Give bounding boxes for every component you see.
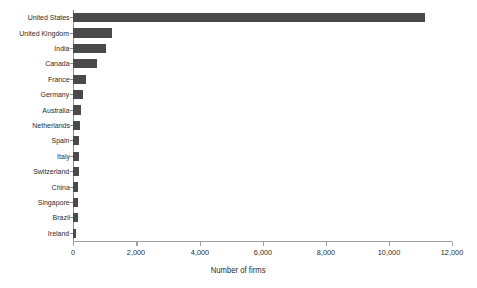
bar-row [73, 179, 452, 194]
x-axis-tick-label: 4,000 [190, 248, 208, 258]
category-label: France [48, 75, 70, 84]
bar[interactable] [73, 152, 79, 161]
bar-row [73, 87, 452, 102]
x-axis-tick-label: 12,000 [441, 248, 463, 258]
bar-row [73, 118, 452, 133]
bar[interactable] [73, 213, 77, 222]
bar[interactable] [73, 167, 78, 176]
category-label: Switzerland [33, 167, 69, 176]
x-axis-tick [200, 242, 201, 246]
x-axis-tick [326, 242, 327, 246]
x-axis-tick-label: 8,000 [317, 248, 335, 258]
bar-row [73, 102, 452, 117]
category-label: United Kingdom [20, 29, 70, 38]
category-label: Singapore [38, 198, 70, 207]
bar[interactable] [73, 198, 78, 207]
category-axis-labels: United StatesUnited KingdomIndiaCanadaFr… [0, 10, 70, 241]
bar-row [73, 10, 452, 25]
category-label: United States [28, 13, 70, 22]
bar[interactable] [73, 28, 112, 37]
bar[interactable] [73, 13, 425, 22]
x-axis-tick-label: 10,000 [378, 248, 400, 258]
bar[interactable] [73, 136, 79, 145]
bar-row [73, 210, 452, 225]
bar[interactable] [73, 182, 78, 191]
bar[interactable] [73, 90, 83, 99]
bar[interactable] [73, 229, 76, 238]
category-label: Australia [42, 106, 69, 115]
x-axis-tick-label: 0 [71, 248, 75, 258]
category-label: Netherlands [32, 121, 70, 130]
bar[interactable] [73, 44, 106, 53]
bar[interactable] [73, 59, 96, 68]
category-label: India [54, 44, 69, 53]
bar-chart: United StatesUnited KingdomIndiaCanadaFr… [0, 0, 477, 288]
x-axis-tick-label: 6,000 [253, 248, 271, 258]
bar-row [73, 41, 452, 56]
category-label: Ireland [48, 229, 69, 238]
category-label: China [51, 183, 69, 192]
x-axis-tick [73, 242, 74, 246]
bar[interactable] [73, 105, 81, 114]
x-axis-tick-label: 2,000 [127, 248, 145, 258]
category-label: Spain [52, 136, 70, 145]
category-label: Italy [57, 152, 70, 161]
category-label: Germany [41, 90, 70, 99]
x-axis-tick [263, 242, 264, 246]
plot-area [73, 10, 452, 241]
bar-row [73, 133, 452, 148]
bar-row [73, 149, 452, 164]
bar-row [73, 25, 452, 40]
x-axis-tick [452, 242, 453, 246]
x-axis-tick [389, 242, 390, 246]
bar[interactable] [73, 121, 79, 130]
bar[interactable] [73, 75, 86, 84]
bar-row [73, 56, 452, 71]
x-axis-title-text: Number of firms [211, 266, 266, 275]
bar-row [73, 164, 452, 179]
x-axis-tick [136, 242, 137, 246]
category-label: Brazil [52, 213, 69, 222]
category-label: Canada [45, 59, 69, 68]
x-axis-title: Number of firms [0, 266, 477, 275]
bar-row [73, 195, 452, 210]
bar-row [73, 226, 452, 241]
bar-row [73, 72, 452, 87]
